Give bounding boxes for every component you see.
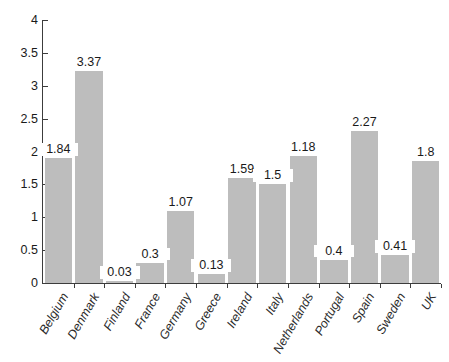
x-axis-tick: [74, 284, 75, 288]
bar: [290, 156, 317, 283]
bar-value-label: 1.18: [283, 141, 323, 154]
bar-value-label: 1.5: [253, 169, 293, 182]
bar: [136, 263, 163, 283]
bar: [198, 274, 225, 283]
bar-value-label: 2.27: [344, 116, 384, 129]
x-axis-tick: [349, 284, 350, 288]
bar-value-label: 0.13: [191, 259, 231, 272]
x-axis-tick: [410, 284, 411, 288]
y-axis-tick-label: 1: [0, 211, 38, 223]
bar: [45, 158, 72, 283]
bar: [259, 184, 286, 283]
x-axis-tick: [104, 284, 105, 288]
y-axis-tick-label: 0.5: [0, 244, 38, 256]
y-axis-tick: [43, 20, 48, 21]
bar-value-label: 1.8: [406, 146, 446, 159]
y-axis-tick-label: 3: [0, 80, 38, 92]
y-axis-tick-label: 4: [0, 14, 38, 26]
x-axis-tick: [165, 284, 166, 288]
bar-value-label: 1.84: [38, 143, 78, 156]
y-axis-tick-label: 2.5: [0, 113, 38, 125]
bar: [75, 71, 102, 283]
y-axis-tick: [43, 283, 48, 284]
y-axis-tick: [43, 53, 48, 54]
x-axis-tick: [441, 284, 442, 288]
bar: [381, 255, 408, 283]
y-axis-tick-label: 2: [0, 146, 38, 158]
bar: [167, 211, 194, 283]
y-axis-tick: [43, 119, 48, 120]
x-axis-tick: [196, 284, 197, 288]
bar: [228, 178, 255, 283]
y-axis-tick: [43, 86, 48, 87]
x-axis-tick: [380, 284, 381, 288]
x-axis-tick: [288, 284, 289, 288]
y-axis-tick-label: 3.5: [0, 47, 38, 59]
bar: [106, 281, 133, 283]
bar-value-label: 0.3: [130, 248, 170, 261]
x-axis-tick: [319, 284, 320, 288]
bar: [320, 260, 347, 283]
y-axis-tick-label: 0: [0, 277, 38, 289]
bar-value-label: 0.4: [314, 245, 354, 258]
y-axis-tick-label: 1.5: [0, 178, 38, 190]
x-axis-tick: [227, 284, 228, 288]
bar-value-label: 1.07: [161, 196, 201, 209]
bar-value-label: 0.03: [100, 266, 140, 279]
x-axis-tick: [135, 284, 136, 288]
bar-value-label: 3.37: [69, 56, 109, 69]
x-axis-line: [43, 283, 441, 284]
x-axis-tick: [257, 284, 258, 288]
bar-value-label: 0.41: [375, 240, 415, 253]
bar-chart: 00.511.522.533.54 1.843.370.030.31.070.1…: [0, 0, 449, 362]
bar: [351, 131, 378, 283]
bar: [412, 161, 439, 283]
